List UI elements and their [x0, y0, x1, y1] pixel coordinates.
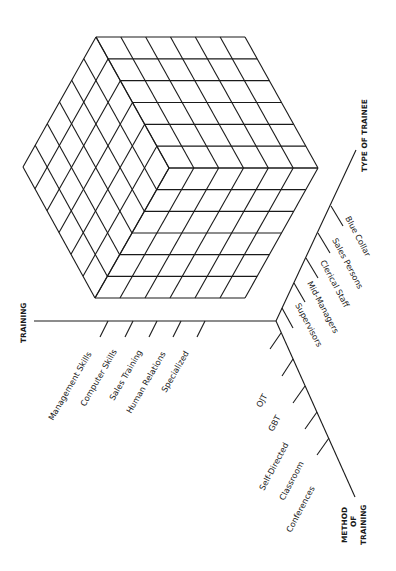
training-item-management-skills: Management Skills — [46, 350, 93, 422]
method-item-ojt: OJT — [254, 391, 270, 409]
training-cube-diagram: TRAINING Management Skills Computer Skil… — [0, 0, 396, 571]
method-axis-title-line-2: OF — [349, 516, 358, 527]
method-axis-title-line-3: TRAINING — [359, 505, 368, 545]
cube-grid — [23, 37, 318, 298]
training-axis-title: TRAINING — [19, 303, 28, 343]
method-item-gbt: GBT — [266, 412, 283, 433]
method-axis-title-line-1: METHOD — [340, 507, 349, 543]
type-of-trainee-axis-title: TYPE OF TRAINEE — [360, 99, 369, 172]
